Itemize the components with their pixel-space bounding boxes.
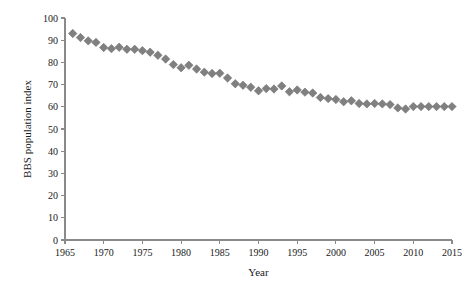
data-point-marker bbox=[285, 88, 293, 96]
scatter-plot: 0102030405060708090100196519701975198019… bbox=[0, 0, 465, 289]
data-point-marker bbox=[69, 29, 77, 37]
y-tick-label: 50 bbox=[48, 124, 58, 135]
data-point-marker bbox=[92, 38, 100, 46]
data-point-marker bbox=[316, 93, 324, 101]
data-point-marker bbox=[332, 95, 340, 103]
x-tick-label: 1995 bbox=[287, 247, 307, 258]
y-tick-label: 40 bbox=[48, 146, 58, 157]
data-point-marker bbox=[262, 84, 270, 92]
y-tick-label: 60 bbox=[48, 101, 58, 112]
data-point-marker bbox=[324, 94, 332, 102]
data-point-marker bbox=[200, 68, 208, 76]
y-tick-label: 10 bbox=[48, 212, 58, 223]
x-tick-label: 2010 bbox=[403, 247, 423, 258]
data-point-marker bbox=[440, 102, 448, 110]
data-point-marker bbox=[247, 83, 255, 91]
x-tick-label: 1975 bbox=[132, 247, 152, 258]
x-axis-title: Year bbox=[248, 266, 269, 278]
y-tick-label: 90 bbox=[48, 35, 58, 46]
data-point-marker bbox=[370, 99, 378, 107]
y-tick-label: 70 bbox=[48, 79, 58, 90]
data-point-marker bbox=[270, 85, 278, 93]
data-point-marker bbox=[84, 37, 92, 45]
data-point-marker bbox=[76, 33, 84, 41]
data-point-marker bbox=[254, 87, 262, 95]
x-tick-label: 1980 bbox=[171, 247, 191, 258]
data-point-marker bbox=[339, 97, 347, 105]
x-tick-label: 2005 bbox=[365, 247, 385, 258]
data-point-marker bbox=[192, 65, 200, 73]
data-point-marker bbox=[432, 102, 440, 110]
y-tick-label: 100 bbox=[43, 13, 58, 24]
data-point-marker bbox=[123, 45, 131, 53]
x-tick-label: 2000 bbox=[326, 247, 346, 258]
data-point-marker bbox=[185, 61, 193, 69]
data-point-marker bbox=[448, 102, 456, 110]
data-point-marker bbox=[208, 69, 216, 77]
x-tick-label: 2015 bbox=[442, 247, 462, 258]
x-tick-label: 1970 bbox=[94, 247, 114, 258]
data-point-marker bbox=[347, 97, 355, 105]
data-point-marker bbox=[177, 64, 185, 72]
data-point-marker bbox=[115, 43, 123, 51]
y-tick-label: 30 bbox=[48, 168, 58, 179]
data-point-marker bbox=[138, 46, 146, 54]
y-axis-title: BBS population index bbox=[21, 80, 33, 178]
data-point-marker bbox=[308, 89, 316, 97]
chart-figure: 0102030405060708090100196519701975198019… bbox=[0, 0, 465, 289]
data-point-marker bbox=[223, 74, 231, 82]
y-tick-label: 0 bbox=[53, 235, 58, 246]
data-point-marker bbox=[417, 102, 425, 110]
data-point-marker bbox=[301, 88, 309, 96]
data-point-marker bbox=[355, 99, 363, 107]
data-point-marker bbox=[231, 80, 239, 88]
x-tick-label: 1985 bbox=[210, 247, 230, 258]
data-point-marker bbox=[386, 100, 394, 108]
data-point-marker bbox=[363, 100, 371, 108]
data-point-marker bbox=[409, 102, 417, 110]
data-point-marker bbox=[278, 82, 286, 90]
x-tick-label: 1965 bbox=[55, 247, 75, 258]
data-point-marker bbox=[154, 51, 162, 59]
data-point-marker bbox=[216, 69, 224, 77]
data-point-marker bbox=[239, 81, 247, 89]
data-point-marker bbox=[146, 48, 154, 56]
data-point-marker bbox=[107, 44, 115, 52]
data-point-marker bbox=[161, 55, 169, 63]
data-point-marker bbox=[169, 60, 177, 68]
x-tick-label: 1990 bbox=[249, 247, 269, 258]
data-point-marker bbox=[401, 105, 409, 113]
y-tick-label: 80 bbox=[48, 57, 58, 68]
data-point-marker bbox=[130, 45, 138, 53]
data-point-marker bbox=[425, 102, 433, 110]
data-point-marker bbox=[378, 100, 386, 108]
y-tick-label: 20 bbox=[48, 190, 58, 201]
data-point-marker bbox=[293, 86, 301, 94]
data-point-marker bbox=[100, 43, 108, 51]
data-point-marker bbox=[394, 104, 402, 112]
